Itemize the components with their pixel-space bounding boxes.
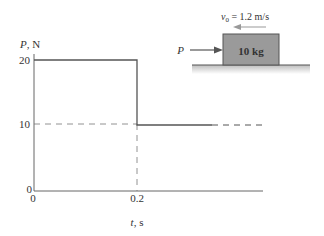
svg-text:P, N: P, N bbox=[19, 38, 40, 50]
y-tick-10: 10 bbox=[19, 118, 31, 130]
ground-shading bbox=[192, 65, 310, 74]
velocity-arrow-head bbox=[233, 24, 241, 30]
diagram: P, N 20 10 0 0 0.2 t, s 10 kg P v0 = 1.2… bbox=[0, 0, 324, 236]
y-tick-20: 20 bbox=[19, 54, 31, 66]
x-tick-0: 0 bbox=[30, 192, 36, 204]
force-label: P bbox=[176, 44, 184, 56]
x-tick-02: 0.2 bbox=[130, 192, 144, 204]
velocity-value: = 1.2 m/s bbox=[229, 11, 269, 22]
svg-text:t, s: t, s bbox=[131, 216, 144, 228]
force-arrow-head bbox=[214, 47, 223, 54]
svg-text:v0 = 1.2 m/s: v0 = 1.2 m/s bbox=[221, 11, 269, 24]
y-label-unit: , N bbox=[27, 38, 41, 50]
inset-diagram: 10 kg P v0 = 1.2 m/s bbox=[176, 11, 310, 74]
block-label: 10 kg bbox=[238, 45, 264, 57]
force-curve bbox=[34, 60, 212, 125]
x-label-unit: , s bbox=[134, 216, 144, 228]
